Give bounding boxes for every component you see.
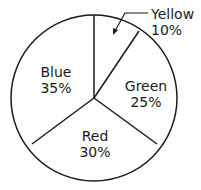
label-red: Red 30%	[65, 128, 125, 160]
label-green: Green 25%	[116, 78, 176, 110]
label-yellow: Yellow 10%	[151, 6, 194, 38]
label-blue: Blue 35%	[26, 64, 86, 96]
